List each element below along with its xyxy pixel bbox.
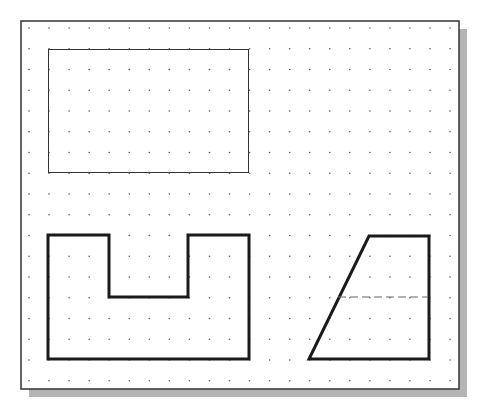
grid-dot bbox=[449, 214, 451, 216]
grid-dot bbox=[149, 152, 151, 154]
grid-dot bbox=[149, 131, 151, 133]
grid-dot bbox=[329, 152, 331, 154]
grid-dot bbox=[229, 339, 231, 341]
grid-dot bbox=[249, 380, 251, 382]
grid-dot bbox=[149, 255, 151, 257]
grid-dot bbox=[309, 235, 311, 237]
grid-dot bbox=[269, 131, 271, 133]
grid-dot bbox=[269, 214, 271, 216]
grid-dot bbox=[149, 339, 151, 341]
grid-dot bbox=[429, 193, 431, 195]
grid-dot bbox=[369, 131, 371, 133]
grid-dot bbox=[229, 131, 231, 133]
grid-dot bbox=[349, 235, 351, 237]
grid-dot bbox=[269, 193, 271, 195]
grid-dot bbox=[129, 90, 131, 92]
grid-dot bbox=[48, 193, 50, 195]
grid-dot bbox=[409, 110, 411, 112]
grid-dot bbox=[88, 255, 90, 257]
grid-dot bbox=[209, 380, 211, 382]
grid-dot bbox=[289, 69, 291, 71]
grid-dot bbox=[369, 255, 371, 257]
grid-dot bbox=[169, 235, 171, 237]
grid-dot bbox=[369, 152, 371, 154]
grid-dot bbox=[349, 255, 351, 257]
grid-dot bbox=[129, 276, 131, 278]
grid-dot bbox=[249, 110, 251, 112]
grid-dot bbox=[28, 69, 30, 71]
grid-dot bbox=[229, 27, 231, 29]
grid-dot bbox=[309, 255, 311, 257]
grid-dot bbox=[28, 235, 30, 237]
grid-dot bbox=[349, 110, 351, 112]
grid-dot bbox=[349, 214, 351, 216]
grid-dot bbox=[309, 214, 311, 216]
grid-dot bbox=[68, 90, 70, 92]
grid-dot bbox=[189, 90, 191, 92]
grid-dot bbox=[68, 339, 70, 341]
grid-dot bbox=[449, 193, 451, 195]
grid-dot bbox=[289, 90, 291, 92]
grid-dot bbox=[269, 297, 271, 299]
grid-dot bbox=[68, 380, 70, 382]
grid-dot bbox=[28, 173, 30, 175]
grid-dot bbox=[329, 48, 331, 50]
grid-dot bbox=[309, 339, 311, 341]
grid-dot bbox=[229, 380, 231, 382]
grid-dot bbox=[229, 214, 231, 216]
grid-dot bbox=[289, 255, 291, 257]
grid-dot bbox=[289, 131, 291, 133]
grid-dot bbox=[108, 193, 110, 195]
grid-dot bbox=[149, 318, 151, 320]
grid-dot bbox=[329, 297, 331, 299]
grid-dot bbox=[149, 69, 151, 71]
grid-dot bbox=[309, 297, 311, 299]
grid-dot bbox=[449, 339, 451, 341]
grid-dot bbox=[209, 255, 211, 257]
grid-dot bbox=[429, 69, 431, 71]
grid-dot bbox=[409, 69, 411, 71]
grid-dot bbox=[269, 90, 271, 92]
grid-dot bbox=[108, 318, 110, 320]
grid-dot bbox=[389, 173, 391, 175]
grid-dot bbox=[88, 193, 90, 195]
grid-dot bbox=[249, 193, 251, 195]
grid-dot bbox=[329, 214, 331, 216]
grid-dot bbox=[28, 90, 30, 92]
grid-dot bbox=[189, 380, 191, 382]
grid-dot bbox=[88, 110, 90, 112]
grid-dot bbox=[28, 359, 30, 361]
grid-dot bbox=[129, 255, 131, 257]
grid-dot bbox=[68, 27, 70, 29]
grid-dot bbox=[389, 380, 391, 382]
grid-dot bbox=[389, 131, 391, 133]
grid-dot bbox=[289, 297, 291, 299]
grid-dot bbox=[329, 380, 331, 382]
grid-dot bbox=[289, 152, 291, 154]
grid-dot bbox=[249, 152, 251, 154]
grid-dot bbox=[329, 69, 331, 71]
grid-dot bbox=[28, 255, 30, 257]
grid-dot bbox=[349, 318, 351, 320]
grid-dot bbox=[68, 318, 70, 320]
grid-dot bbox=[329, 339, 331, 341]
grid-dot bbox=[249, 214, 251, 216]
grid-dot bbox=[249, 173, 251, 175]
grid-dot bbox=[48, 27, 50, 29]
grid-dot bbox=[169, 110, 171, 112]
drawing-frame bbox=[21, 21, 459, 389]
grid-dot bbox=[349, 27, 351, 29]
grid-dot bbox=[349, 48, 351, 50]
grid-dot bbox=[189, 131, 191, 133]
frame-shadow-right bbox=[459, 29, 467, 397]
grid-dot bbox=[209, 27, 211, 29]
grid-dot bbox=[88, 297, 90, 299]
grid-dot bbox=[189, 110, 191, 112]
grid-dot bbox=[28, 380, 30, 382]
grid-dot bbox=[369, 214, 371, 216]
grid-dot bbox=[329, 235, 331, 237]
grid-dot bbox=[269, 48, 271, 50]
grid-dot bbox=[449, 235, 451, 237]
grid-dot bbox=[429, 152, 431, 154]
grid-dot bbox=[289, 339, 291, 341]
